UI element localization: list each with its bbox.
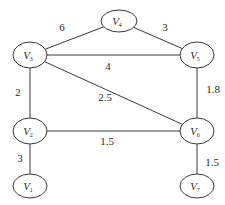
node-v1: V1 <box>13 174 47 198</box>
edge-weight-label: 1.5 <box>205 156 219 168</box>
node-v4: V4 <box>101 10 137 32</box>
node-v5: V5 <box>180 42 214 68</box>
edge-weight-label: 2.5 <box>98 91 112 103</box>
edge-labels-layer: 63422.51.81.531.5 <box>15 21 220 168</box>
edge-weight-label: 3 <box>17 152 23 164</box>
edge-weight-label: 3 <box>162 21 168 33</box>
graph-diagram: 63422.51.81.531.5 V1V2V3V4V5V6V7 <box>0 0 225 205</box>
edge-weight-label: 2 <box>15 86 21 98</box>
edge-weight-label: 1.5 <box>100 135 114 147</box>
node-ellipse <box>101 10 137 32</box>
node-v7: V7 <box>180 174 214 198</box>
node-ellipse <box>13 118 47 144</box>
node-ellipse <box>180 42 214 68</box>
node-ellipse <box>13 42 47 68</box>
node-ellipse <box>180 174 214 198</box>
edge-v3-v6 <box>45 62 183 125</box>
edges-layer <box>30 27 197 174</box>
edge-v3-v4 <box>45 27 104 49</box>
edge-weight-label: 6 <box>59 21 65 33</box>
edge-weight-label: 1.8 <box>206 83 220 95</box>
node-ellipse <box>13 174 47 198</box>
node-v3: V3 <box>13 42 47 68</box>
nodes-layer: V1V2V3V4V5V6V7 <box>13 10 214 198</box>
edge-weight-label: 4 <box>105 60 111 72</box>
node-v6: V6 <box>180 118 214 144</box>
node-ellipse <box>180 118 214 144</box>
edge-v4-v5 <box>134 27 183 48</box>
node-v2: V2 <box>13 118 47 144</box>
